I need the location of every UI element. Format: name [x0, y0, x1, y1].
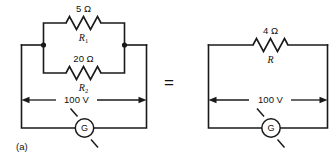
right-voltage-label: 100 V [258, 94, 283, 105]
left-voltage-label: 100 V [64, 94, 89, 105]
left-galvanometer: G [71, 109, 99, 148]
right-outer-wire-left-bottom [209, 45, 263, 128]
resistance-value-r1: 5 Ω [76, 3, 91, 14]
left-outer-wire-right-bottom [94, 45, 147, 128]
resistor-symbol-r: R [266, 54, 273, 65]
resistor-r1-zigzag [66, 17, 101, 30]
junction-dot-left [41, 42, 46, 47]
left-circuit-group: 100 V G 5 Ω R1 20 Ω R2 (a) [16, 3, 147, 153]
galvanometer-needle-lower-right [91, 140, 98, 148]
voltage-arrowhead-right [139, 97, 147, 103]
resistance-value-r: 4 Ω [263, 25, 278, 36]
galvanometer-label: G [81, 123, 88, 133]
resistor-r2-zigzag [66, 67, 101, 80]
right-galvanometer: G [257, 109, 285, 148]
resistor-symbol-r2: R2 [78, 82, 88, 94]
right-circuit-group: 100 V G 4 Ω R [209, 25, 328, 148]
resistor-r-zigzag [253, 39, 288, 52]
left-voltage-dimension: 100 V [22, 94, 147, 105]
right-voltage-arrowhead-left [209, 97, 217, 103]
circuit-diagram-canvas: 100 V G 5 Ω R1 20 Ω R2 (a) = [0, 0, 336, 154]
resistor-symbol-r1: R1 [78, 32, 88, 44]
galvanometer-needle-upper-left [71, 109, 78, 117]
circuit-figure: 100 V G 5 Ω R1 20 Ω R2 (a) = [0, 0, 336, 154]
figure-caption: (a) [16, 141, 28, 152]
right-galvanometer-label: G [267, 123, 274, 133]
junction-dot-right [122, 42, 127, 47]
right-voltage-dimension: 100 V [209, 94, 328, 105]
right-galvanometer-needle-upper-left [257, 109, 264, 117]
branch-bottom-wire-right [101, 45, 125, 73]
equals-sign: = [164, 73, 174, 92]
branch-top-wire-right [101, 23, 125, 45]
branch-top-wire-left [44, 23, 67, 45]
left-outer-wire-left-bottom [22, 45, 76, 128]
right-galvanometer-needle-lower-right [278, 140, 285, 148]
branch-bottom-wire-left [44, 45, 67, 73]
right-outer-wire-right-bottom [280, 45, 328, 128]
right-voltage-arrowhead-right [320, 97, 328, 103]
voltage-arrowhead-left [22, 97, 30, 103]
resistance-value-r2: 20 Ω [73, 53, 93, 64]
